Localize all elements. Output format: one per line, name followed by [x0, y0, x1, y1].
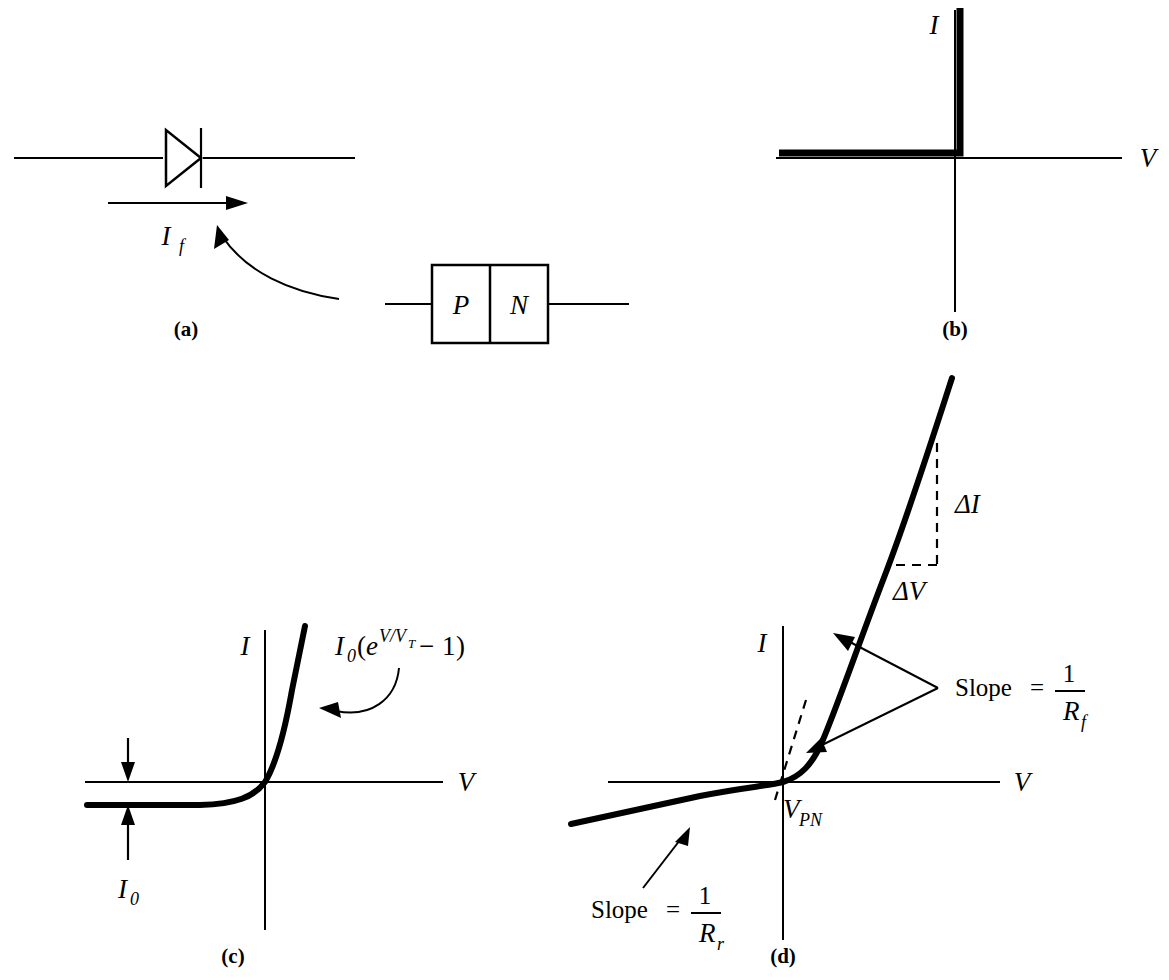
figure-canvas: I f P N (a) I V (b) I V I 0 ( e V/V T − …	[0, 0, 1169, 980]
slope-forward-denominator: R	[1062, 696, 1080, 726]
panel-d	[571, 378, 1000, 940]
callout-arrow-icon	[214, 225, 229, 249]
panel-a	[14, 128, 629, 343]
panel-c-i-axis-label: I	[240, 631, 252, 661]
shockley-formula-label: I 0 ( e V/V T − 1 )	[334, 626, 465, 666]
panel-b-v-axis-label: V	[1140, 143, 1160, 173]
knee-tangent-dashed	[775, 700, 806, 800]
shockley-minus-sign: −	[419, 631, 434, 661]
shockley-lead-subscript: 0	[347, 646, 356, 666]
panel-a-current-subscript: f	[179, 236, 187, 256]
shockley-curve	[87, 626, 305, 805]
slope-f-upper-leader-shaft	[848, 641, 938, 688]
p-region-label: P	[452, 290, 470, 320]
n-region-label: N	[509, 290, 530, 320]
slope-reverse-equals: =	[666, 896, 680, 923]
panel-d-i-axis-label: I	[757, 628, 769, 658]
callout-arrow-shaft	[222, 236, 339, 299]
slope-reverse-text: Slope	[591, 896, 648, 923]
slope-forward-denominator-sub: f	[1081, 712, 1089, 732]
panel-c-v-axis-label: V	[458, 767, 478, 797]
slope-forward-numerator: 1	[1063, 660, 1076, 687]
saturation-current-subscript: 0	[130, 889, 139, 909]
knee-voltage-subscript: PN	[798, 810, 823, 830]
panel-c	[85, 626, 443, 930]
shockley-lead-symbol: I	[334, 631, 346, 661]
panel-c-label: (c)	[221, 944, 244, 968]
slope-reverse-denominator-sub: r	[717, 934, 725, 954]
slope-reverse-label: Slope = 1 R r	[591, 882, 725, 954]
panel-d-v-axis-label: V	[1014, 767, 1034, 797]
slope-f-upper-arrow-icon	[833, 633, 855, 651]
panel-b-label: (b)	[942, 317, 968, 341]
slope-reverse-denominator: R	[698, 918, 716, 948]
slope-reverse-numerator: 1	[699, 882, 712, 909]
slope-r-leader-shaft	[643, 840, 680, 888]
panel-a-current-label: I	[161, 221, 173, 251]
shockley-leader-shaft	[336, 668, 399, 713]
shockley-close-paren: )	[456, 631, 465, 661]
panel-b-i-axis-label: I	[929, 10, 941, 40]
shockley-leader-arrow-icon	[319, 702, 341, 718]
delta-v-label: ΔV	[892, 576, 929, 606]
shockley-one: 1	[442, 631, 456, 661]
delta-i-label: ΔI	[954, 489, 982, 519]
slope-forward-text: Slope	[955, 674, 1012, 701]
slope-forward-label: Slope = 1 R f	[955, 660, 1089, 732]
figure-root: I f P N (a) I V (b) I V I 0 ( e V/V T − …	[0, 0, 1169, 980]
i0-down-arrow-icon	[121, 762, 135, 782]
shockley-exp-base: e	[366, 631, 378, 661]
panel-a-label: (a)	[174, 317, 199, 341]
saturation-current-symbol: I	[117, 874, 129, 904]
diode-symbol-icon	[166, 130, 201, 186]
shockley-open-paren: (	[357, 631, 366, 661]
panel-b	[776, 8, 1122, 312]
current-arrow-icon	[226, 196, 248, 210]
shockley-exponent: V/V	[379, 626, 408, 646]
shockley-exponent-subscript: T	[408, 636, 416, 651]
slope-forward-equals: =	[1030, 674, 1044, 701]
panel-d-label: (d)	[770, 944, 796, 968]
